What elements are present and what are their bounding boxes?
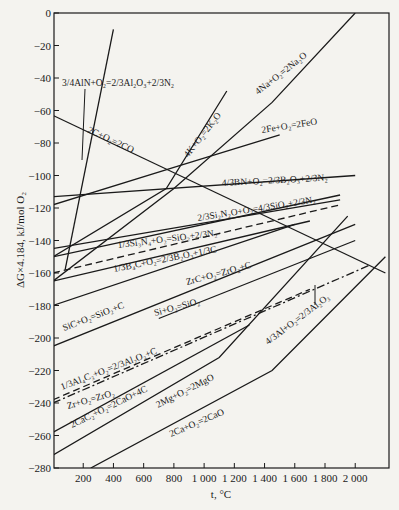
label-na: 4Na+O₂=2Na₂O	[253, 50, 309, 97]
x-axis: 2004006008001 0001 2001 4001 6001 8002 0…	[75, 463, 368, 484]
x-tick-label: 200	[75, 472, 92, 484]
y-tick-label: −120	[28, 202, 51, 214]
x-tick-label: 2 000	[343, 472, 368, 484]
x-axis-title: t, °C	[211, 488, 231, 500]
y-tick-label: −200	[28, 332, 51, 344]
ellingham-diagram: 0−20−40−60−80−100−120−140−160−180−200−22…	[0, 0, 399, 510]
y-tick-label: −180	[28, 300, 51, 312]
label-si2n2o: 2/3Si₂N₂O+O₂=4/3SiO₂+2/3N₂	[197, 194, 316, 223]
series-line	[65, 29, 113, 269]
label-aln: 3/4AlN+O₂=2/3Al₂O₃+2/3N₂	[62, 78, 174, 88]
x-tick-label: 400	[105, 472, 122, 484]
y-tick-label: −80	[34, 137, 52, 149]
y-tick-label: −60	[34, 105, 52, 117]
y-tick-label: −220	[28, 365, 51, 377]
y-axis-title: ΔG×4.184, kJ/mol O₂	[14, 192, 26, 288]
x-tick-label: 1 600	[282, 472, 307, 484]
y-tick-label: −140	[28, 235, 51, 247]
label-sic: SiC+O₂=SiO₂+C	[61, 300, 125, 333]
label-bn: 4/3BN+O₂=2/3B₂O₃+2/3N₂	[222, 172, 328, 188]
x-tick-label: 600	[135, 472, 152, 484]
label-si: Si+O₂=SiO₂	[153, 296, 201, 318]
x-tick-label: 1 000	[192, 472, 217, 484]
label-leader-line	[82, 89, 85, 160]
y-tick-label: −280	[28, 462, 51, 474]
label-al: 4/3Al+O₂=2/3Al₂O₃	[263, 292, 331, 347]
x-tick-label: 1 200	[222, 472, 247, 484]
y-tick-label: −240	[28, 397, 51, 409]
label-co: 2C+O₂=2CO	[86, 125, 136, 155]
x-tick-label: 800	[166, 472, 183, 484]
x-tick-label: 1 800	[313, 472, 338, 484]
y-tick-label: −260	[28, 430, 51, 442]
y-tick-label: −20	[34, 40, 52, 52]
x-tick-label: 1 400	[252, 472, 277, 484]
y-tick-label: 0	[46, 7, 52, 19]
y-tick-label: −160	[28, 267, 51, 279]
label-fe: 2Fe+O₂=2FeO	[261, 116, 318, 135]
y-tick-label: −40	[34, 72, 52, 84]
label-k: 4K+O₂=2K₂O	[182, 110, 223, 159]
series-line	[53, 224, 355, 346]
label-zrc: ZrC+O₂=ZrO₂+C	[185, 260, 252, 287]
y-tick-label: −100	[28, 170, 51, 182]
